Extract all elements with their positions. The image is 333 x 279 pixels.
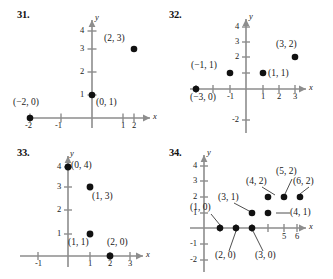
data-point: [217, 225, 224, 232]
x-tick-label-34: 5: [282, 231, 286, 241]
x-tick-label-31: -1: [55, 120, 62, 130]
x-tick-label-33: 2: [108, 258, 112, 268]
y-tick-label-31: 3: [80, 43, 84, 53]
x-axis-label-31: x: [153, 111, 157, 121]
data-point: [87, 184, 94, 191]
x-tick-label-33: 1: [88, 258, 92, 268]
y-axis-label-34: y: [207, 147, 211, 157]
point-label-1-1: (1, 1): [68, 237, 89, 247]
x-tick-label-32: -1: [227, 91, 234, 101]
point-label-5-2: (5, 2): [276, 166, 297, 176]
x-axis-label-33: x: [146, 249, 150, 259]
y-tick-label-34: -2: [190, 254, 197, 264]
y-tick-label-32: 3: [235, 36, 239, 46]
data-point: [89, 92, 96, 99]
point-label-2-3: (2, 3): [104, 33, 125, 43]
point-label-3-0: (3, 0): [255, 250, 276, 260]
y-tick-label-32: 2: [235, 51, 239, 61]
point-label-2-0: (2, 0): [107, 237, 128, 247]
leader-line-6-2: [300, 187, 309, 194]
point-label-1-1: (1, 1): [268, 68, 289, 78]
x-tick-label-31: -2: [25, 120, 32, 130]
point-label-1-0: (1, 0): [190, 202, 211, 212]
x-tick-label-32: 1: [261, 91, 265, 101]
y-tick-label-33: 3: [57, 181, 61, 191]
x-axis-label-32: x: [309, 82, 313, 92]
point-label-0-1: (0, 1): [96, 97, 117, 107]
x-axis-label-34: x: [309, 221, 313, 231]
data-point: [233, 225, 240, 232]
point-label-neg3-0: (−3, 0): [190, 92, 216, 102]
problem-32: 32.: [166, 0, 333, 140]
data-point: [281, 194, 288, 201]
point-label-neg1-1: (−1, 1): [191, 60, 217, 70]
data-point: [265, 194, 272, 201]
x-axis-arrow-34: [299, 225, 306, 232]
x-tick-label-33: -1: [35, 258, 42, 268]
point-label-0-4: (0, 4): [71, 160, 92, 170]
point-label-2-0: (2, 0): [215, 250, 236, 260]
leader-line-3-1: [234, 203, 251, 212]
y-tick-label-34: 3: [193, 175, 197, 185]
problem-31: 31.: [0, 0, 167, 140]
y-tick-label-33: 1: [57, 228, 61, 238]
y-tick-label-33: 2: [57, 204, 61, 214]
x-axis-arrow-31: [143, 115, 150, 122]
y-axis-label-32: y: [249, 11, 253, 21]
data-point: [249, 225, 256, 232]
x-tick-label-34: 6: [295, 231, 299, 241]
data-point: [131, 46, 138, 53]
x-axis-arrow-33: [136, 253, 143, 260]
point-label-4-1: (4, 1): [290, 207, 311, 217]
x-tick-label-31: 2: [132, 120, 136, 130]
data-point: [265, 210, 272, 217]
problem-33: 33. -1 1: [0, 139, 167, 279]
point-label-6-2: (6, 2): [293, 176, 314, 186]
data-point: [292, 54, 299, 61]
point-label-1-3: (1, 3): [92, 191, 113, 201]
point-label-4-2: (4, 2): [246, 176, 267, 186]
y-tick-label-32: 4: [235, 21, 239, 31]
y-tick-label-34: 2: [193, 191, 197, 201]
y-tick-label-32: -2: [232, 114, 239, 124]
leader-line-2-0: [229, 231, 236, 251]
y-tick-label-34: -1: [190, 238, 197, 248]
data-point: [227, 70, 234, 77]
leader-line-3-0: [253, 231, 263, 251]
y-axis-label-33: y: [70, 148, 74, 158]
problem-34: 34.: [166, 139, 333, 279]
y-tick-label-31: 4: [80, 25, 84, 35]
exercise-sheet: 31.: [0, 0, 333, 279]
x-axis-arrow-32: [299, 86, 306, 93]
leader-line-1-0: [211, 214, 220, 225]
x-tick-label-33: 3: [128, 258, 132, 268]
point-label-3-1: (3, 1): [218, 192, 239, 202]
y-axis-label-31: y: [95, 12, 99, 22]
data-point: [260, 70, 267, 77]
y-tick-label-31: 1: [80, 89, 84, 99]
y-tick-label-34: 4: [193, 160, 197, 170]
y-tick-label-31: 2: [80, 66, 84, 76]
x-tick-label-31: 1: [121, 120, 125, 130]
x-tick-label-32: 2: [277, 91, 281, 101]
y-tick-label-33: 4: [57, 161, 61, 171]
x-tick-label-32: 3: [293, 91, 297, 101]
leader-line-5-2: [285, 179, 292, 194]
data-point: [297, 194, 304, 201]
data-point: [249, 210, 256, 217]
point-label-3-2: (3, 2): [276, 39, 297, 49]
point-label-neg2-0: (−2, 0): [13, 97, 39, 107]
plot-32: [166, 0, 333, 140]
